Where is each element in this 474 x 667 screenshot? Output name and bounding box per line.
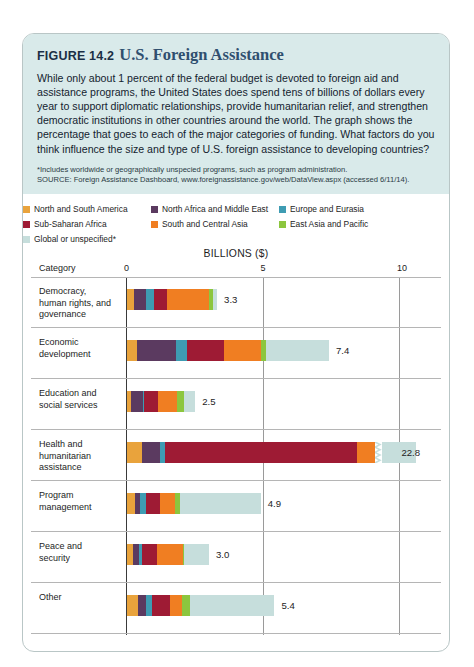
bar-segment[interactable] <box>127 442 142 463</box>
plot-region: Category 0510Democracy, human rights, an… <box>31 263 441 635</box>
category-label: Program management <box>39 490 115 513</box>
legend-label: North and South America <box>34 204 128 214</box>
chart-row[interactable]: Other5.4 <box>31 583 441 634</box>
x-axis-title: BILLIONS ($) <box>23 248 449 259</box>
bar-segment[interactable] <box>224 340 261 361</box>
legend-item[interactable]: South and Central Asia <box>151 220 248 229</box>
chart-row[interactable]: Economic development7.4 <box>31 328 441 379</box>
bar-segment[interactable] <box>138 595 146 616</box>
bar-segment[interactable] <box>213 289 217 310</box>
bar-segment[interactable] <box>142 442 160 463</box>
figure-header: FIGURE 14.2U.S. Foreign Assistance While… <box>23 34 449 194</box>
stacked-bar[interactable] <box>127 289 217 310</box>
figure-number: FIGURE 14.2 <box>37 49 114 63</box>
bar-value-label: 5.4 <box>281 600 294 611</box>
legend-swatch-icon <box>279 221 286 228</box>
legend-swatch-icon <box>279 206 286 213</box>
bar-segment[interactable] <box>180 493 261 514</box>
figure-description: While only about 1 percent of the federa… <box>37 71 435 155</box>
bar-value-label: 22.8 <box>401 447 420 458</box>
bar-value-label: 4.9 <box>268 498 281 509</box>
stacked-bar[interactable] <box>127 544 209 565</box>
bar-value-label: 7.4 <box>336 345 349 356</box>
chart-row[interactable]: Democracy, human rights, and governance3… <box>31 277 441 328</box>
bar-segment[interactable] <box>190 595 275 616</box>
bar-segment[interactable] <box>154 289 166 310</box>
chart-row[interactable]: Program management4.9 <box>31 481 441 532</box>
bar-segment-truncated-tail[interactable] <box>382 442 394 463</box>
figure-notes: *Includes worldwide or geographically un… <box>37 165 435 186</box>
stacked-bar[interactable] <box>127 442 416 463</box>
figure-source: SOURCE: Foreign Assistance Dashboard, ww… <box>37 175 435 185</box>
bar-segment[interactable] <box>137 340 177 361</box>
bar-segment[interactable] <box>167 289 209 310</box>
legend-label: Europe and Eurasia <box>290 204 364 214</box>
legend-swatch-icon <box>151 221 158 228</box>
legend-item[interactable]: North and South America <box>23 205 128 214</box>
bar-segment[interactable] <box>266 340 329 361</box>
category-label: Other <box>39 592 115 604</box>
bar-segment[interactable] <box>158 391 177 412</box>
bar-segment[interactable] <box>142 544 157 565</box>
legend-swatch-icon <box>23 236 30 243</box>
bar-segment[interactable] <box>146 493 160 514</box>
stacked-bar[interactable] <box>127 340 329 361</box>
bar-segment[interactable] <box>146 289 154 310</box>
bar-value-label: 3.3 <box>224 294 237 305</box>
bar-segment[interactable] <box>131 391 142 412</box>
x-axis-tick-label: 0 <box>124 263 129 273</box>
legend-item[interactable]: Sub-Saharan Africa <box>23 220 107 229</box>
legend-item[interactable]: North Africa and Middle East <box>151 205 268 214</box>
legend-label: Global or unspecified* <box>34 234 116 244</box>
bar-segment[interactable] <box>127 595 138 616</box>
figure-title: U.S. Foreign Assistance <box>119 45 284 64</box>
bar-segment[interactable] <box>187 340 224 361</box>
legend-item[interactable]: East Asia and Pacific <box>279 220 368 229</box>
bar-segment[interactable] <box>160 493 175 514</box>
bar-value-label: 2.5 <box>202 396 215 407</box>
chart-legend: North and South AmericaNorth Africa and … <box>23 205 449 247</box>
legend-swatch-icon <box>23 221 30 228</box>
stacked-bar[interactable] <box>127 595 274 616</box>
legend-item[interactable]: Europe and Eurasia <box>279 205 364 214</box>
legend-label: East Asia and Pacific <box>290 219 368 229</box>
figure-card: FIGURE 14.2U.S. Foreign Assistance While… <box>22 33 450 652</box>
row-separator <box>31 633 441 634</box>
bar-segment[interactable] <box>152 595 170 616</box>
bar-segment[interactable] <box>176 340 187 361</box>
bar-segment[interactable] <box>170 595 182 616</box>
legend-label: North Africa and Middle East <box>162 204 268 214</box>
category-label: Education and social services <box>39 388 115 411</box>
bar-segment[interactable] <box>177 391 185 412</box>
legend-swatch-icon <box>151 206 158 213</box>
legend-swatch-icon <box>23 206 30 213</box>
bar-segment[interactable] <box>134 289 146 310</box>
bar-value-label: 3.0 <box>216 549 229 560</box>
figure-title-row: FIGURE 14.2U.S. Foreign Assistance <box>37 46 435 64</box>
legend-label: South and Central Asia <box>162 219 248 229</box>
chart-row[interactable]: Health and humanitarian assistance22.8 <box>31 430 441 481</box>
axis-break-icon <box>375 442 382 463</box>
page-root: FIGURE 14.2U.S. Foreign Assistance While… <box>0 0 474 667</box>
x-axis-tick-label: 5 <box>261 263 266 273</box>
legend-item[interactable]: Global or unspecified* <box>23 235 116 244</box>
figure-footnote: *Includes worldwide or geographically un… <box>37 165 435 175</box>
bar-segment[interactable] <box>127 289 134 310</box>
bar-segment[interactable] <box>184 544 209 565</box>
x-axis-tick-label: 10 <box>397 263 407 273</box>
bar-segment[interactable] <box>144 391 158 412</box>
bar-segment[interactable] <box>127 493 135 514</box>
bar-segment[interactable] <box>165 442 357 463</box>
chart-row[interactable]: Education and social services2.5 <box>31 379 441 430</box>
category-label: Peace and security <box>39 541 115 564</box>
bar-segment[interactable] <box>157 544 183 565</box>
stacked-bar[interactable] <box>127 493 261 514</box>
stacked-bar[interactable] <box>127 391 195 412</box>
legend-label: Sub-Saharan Africa <box>34 219 107 229</box>
bar-segment[interactable] <box>182 595 190 616</box>
chart-area: North and South AmericaNorth Africa and … <box>23 205 449 635</box>
chart-row[interactable]: Peace and security3.0 <box>31 532 441 583</box>
bar-segment[interactable] <box>127 340 137 361</box>
category-label: Democracy, human rights, and governance <box>39 286 115 321</box>
bar-segment[interactable] <box>184 391 195 412</box>
